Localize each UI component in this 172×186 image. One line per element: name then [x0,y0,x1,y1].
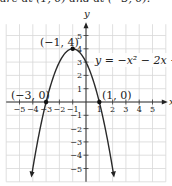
left-intercept-label: (−3, 0) [11,89,50,102]
svg-text:2: 2 [77,71,82,80]
axes [6,22,168,182]
svg-text:3: 3 [77,58,82,67]
svg-text:1: 1 [77,85,82,94]
y-axis-label: y [83,8,90,19]
svg-text:−4: −4 [27,105,39,114]
svg-text:3: 3 [123,105,128,114]
svg-text:−5: −5 [70,165,82,174]
point-x-intercept [97,100,101,104]
svg-text:−3: −3 [70,138,82,147]
svg-text:−5: −5 [14,105,26,114]
parabola-chart: −5−4−3−2−112345−5−4−3−2−112345 (−1, 4) (… [0,0,172,186]
equation-label: y = −x² − 2x + [94,54,172,67]
x-axis-label: x [169,96,172,107]
svg-text:−1: −1 [70,111,82,120]
svg-text:4: 4 [137,105,142,114]
svg-text:−4: −4 [70,151,82,160]
right-intercept-label: (1, 0) [102,89,132,102]
svg-text:−2: −2 [54,105,66,114]
svg-text:5: 5 [150,105,155,114]
vertex-label: (−1, 4) [40,36,79,49]
svg-text:−3: −3 [40,105,52,114]
svg-text:−2: −2 [70,125,82,134]
svg-text:2: 2 [110,105,115,114]
